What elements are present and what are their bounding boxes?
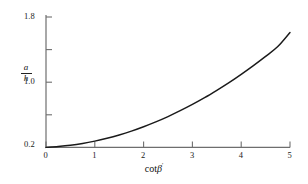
x-tick-label-3: 3	[190, 151, 194, 160]
prime-mark-icon: ′	[162, 162, 163, 168]
chart-figure: 1.8 1.0 0.2 a h 012345 cotβ′	[0, 0, 308, 184]
x-axis-ticks	[46, 141, 290, 147]
x-tick-label-2: 2	[141, 151, 145, 160]
x-axis-title-function: cot	[145, 163, 157, 174]
x-tick-label-0: 0	[44, 151, 48, 160]
data-series-curve	[46, 32, 290, 147]
x-tick-label-4: 4	[239, 151, 243, 160]
y-axis-title-numerator: a	[17, 63, 35, 72]
x-axis-title: cotβ′	[0, 163, 308, 174]
y-axis-title-denominator: h	[17, 74, 35, 83]
x-tick-label-1: 1	[92, 151, 96, 160]
y-axis-title: a h	[17, 63, 35, 84]
y-axis-ticks	[46, 17, 52, 147]
y-tick-label-0-2: 0.2	[24, 140, 35, 149]
y-tick-label-1-8: 1.8	[24, 12, 35, 21]
x-tick-label-5: 5	[288, 151, 292, 160]
